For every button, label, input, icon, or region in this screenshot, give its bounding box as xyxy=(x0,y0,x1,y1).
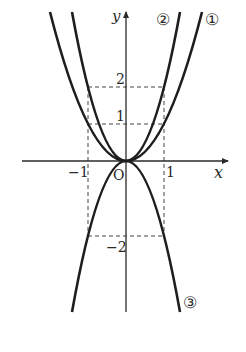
tick-label-x-neg1: −1 xyxy=(68,164,89,180)
y-axis-label: y xyxy=(111,7,121,25)
curve-marker-3: ③ xyxy=(183,293,197,312)
x-axis-label: x xyxy=(214,163,223,182)
curve-marker-1: ① xyxy=(205,10,219,29)
tick-label-y-1: 1 xyxy=(116,108,125,124)
curve-marker-2: ② xyxy=(156,10,170,29)
function-graph: y x O −1 1 1 2 −2 ② ① ③ xyxy=(0,0,246,352)
tick-label-y-2: 2 xyxy=(116,71,125,87)
origin-label: O xyxy=(113,167,124,183)
tick-label-x-1: 1 xyxy=(166,164,175,180)
tick-label-y-neg2: −2 xyxy=(106,239,127,255)
